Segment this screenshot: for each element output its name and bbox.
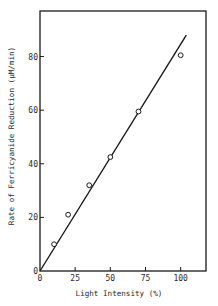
fit-line: [40, 35, 186, 271]
data-point: [108, 155, 113, 160]
data-point: [136, 109, 141, 114]
data-point: [87, 183, 92, 188]
x-axis-title: Light Intensity (%): [76, 289, 163, 298]
x-tick-label: 75: [141, 274, 151, 283]
x-tick-label: 25: [70, 274, 80, 283]
chart: 0255075100 020406080 Light Intensity (%)…: [0, 0, 218, 306]
data-points: [52, 53, 183, 247]
data-point: [66, 212, 71, 217]
y-tick-label: 40: [28, 160, 38, 169]
y-tick-label: 0: [33, 267, 38, 276]
regression-line: [40, 35, 186, 271]
x-tick-label: 100: [173, 274, 188, 283]
y-tick-label: 20: [28, 213, 38, 222]
y-axis-ticks: 020406080: [28, 53, 44, 276]
data-point: [178, 53, 183, 58]
y-tick-label: 80: [28, 53, 38, 62]
data-point: [52, 242, 57, 247]
x-tick-label: 50: [106, 274, 116, 283]
y-tick-label: 60: [28, 106, 38, 115]
y-axis-title: Rate of Ferricyanide Reduction (μM/min): [7, 47, 16, 225]
x-axis-ticks: 0255075100: [38, 267, 188, 283]
x-tick-label: 0: [38, 274, 43, 283]
